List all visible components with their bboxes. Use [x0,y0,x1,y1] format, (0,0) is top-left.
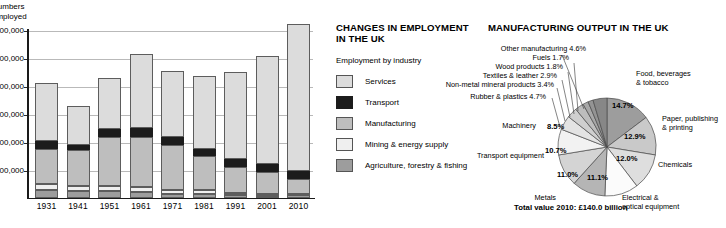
legend-swatch-icon [336,75,353,88]
pie-leader-line [562,80,570,117]
legend-swatch-icon [336,159,353,172]
y-tick-label: 5,000,000 [0,167,24,175]
pie-pct-paper: 12.9% [624,132,646,141]
y-axis-line [27,29,29,198]
legend-swatch-icon [336,117,353,130]
pie-leader-line [557,88,565,121]
x-tick-label: 1981 [188,201,221,211]
legend-swatch-icon [336,96,353,109]
pie-leader-line [562,55,584,109]
bar-segment-mining [161,190,184,193]
bar-1951 [98,78,121,198]
x-tick-label: 2001 [251,201,284,211]
bar-segment-mining [130,187,153,192]
bar-segment-transport [130,128,153,136]
x-tick-label: 2010 [282,201,315,211]
infographic-root: Numbers employed 30,000,000 25,000,000 2… [0,0,726,228]
manufacturing-pie-panel: MANUFACTURING OUTPUT IN THE UK 14.7% 12.… [488,22,726,228]
pie-label-metals: Metals [535,194,557,203]
bar-segment-transport [35,141,58,149]
bar-1931 [35,83,58,197]
bar-segment-manufacturing [193,156,216,191]
x-tick-label: 1951 [93,201,126,211]
pie-label-other: Other manufacturing 4.6% [501,45,586,54]
bar-segment-mining [67,186,90,191]
y-tick-label: 20,000,000 [0,83,24,91]
bar-2001 [256,56,279,198]
pie-label-textiles: Textiles & leather 2.9% [483,72,557,81]
x-tick-label: 1971 [156,201,189,211]
y-tick-label: 10,000,000 [0,139,24,147]
bar-segment-services [224,72,247,159]
bar-segment-services [98,78,121,129]
legend-item-label: Transport [365,98,399,107]
bar-segment-transport [193,149,216,156]
bar-segment-services [35,83,58,140]
bar-segment-agriculture [130,192,153,197]
pie-label-fuels: Fuels 1.7% [532,54,569,63]
bar-segment-mining [35,184,58,191]
pie-pct-transport: 10.7% [545,146,567,155]
employment-panel: CHANGES IN EMPLOYMENT IN THE UK Employme… [336,22,486,176]
x-axis-line [27,198,315,200]
bar-segment-services [193,76,216,148]
pie-label-chemicals: Chemicals [658,161,692,170]
bar-segment-transport [67,145,90,150]
x-tick-label: 1991 [219,201,252,211]
bar-segment-agriculture [224,195,247,198]
legend-item-label: Agriculture, forestry & fishing [365,161,467,170]
pie-leader-line [568,72,574,114]
bar-segment-agriculture [193,194,216,197]
bar-segment-agriculture [35,190,58,197]
y-tick-label: 30,000,000 [0,27,24,35]
bar-segment-services [67,106,90,145]
pie-pct-chemicals: 12.0% [616,154,638,163]
pie-label-paper: Paper, publishing & printing [662,115,718,132]
bar-segment-manufacturing [98,137,121,187]
y-axis-title: Numbers employed [0,2,44,21]
bar-segment-services [130,54,153,128]
bar-segment-manufacturing [35,149,58,184]
employment-panel-title: CHANGES IN EMPLOYMENT IN THE UK [336,22,486,45]
bar-segment-manufacturing [130,137,153,188]
bar-segment-manufacturing [67,150,90,186]
bar-segment-agriculture [287,195,310,197]
legend-item-mining: Mining & energy supply [336,134,486,155]
bar-segment-transport [98,129,121,137]
legend-item-label: Services [365,77,396,86]
legend-swatch-icon [336,138,353,151]
bar-segment-agriculture [256,196,279,198]
pie-label-food: Food, beverages & tobacco [636,70,691,87]
pie-pct-food: 14.7% [612,101,634,110]
pie-pct-metals: 11.0% [557,170,578,179]
bar-segment-services [256,56,279,165]
pie-label-electrical: Electrical & optical equipment [622,194,679,211]
bar-segment-manufacturing [224,167,247,193]
bar-segment-mining [98,186,121,191]
legend-item-manufacturing: Manufacturing [336,113,486,134]
pie-label-wood: Wood products 1.8% [495,63,563,72]
x-tick-label: 1941 [62,201,95,211]
legend-item-agriculture: Agriculture, forestry & fishing [336,155,486,176]
gridline [28,31,313,32]
pie-total-label: Total value 2010: £140.0 billion [514,203,627,212]
legend-item-label: Manufacturing [365,119,416,128]
x-tick-label: 1961 [125,201,158,211]
pie-pct-machinery: 8.5% [547,122,564,131]
pie-label-nonmetal: Non-metal mineral products 3.4% [446,81,554,90]
bar-1991 [224,72,247,197]
bar-segment-transport [224,159,247,167]
employment-bar-chart: Numbers employed 30,000,000 25,000,000 2… [0,0,340,228]
pie-label-machinery: Machinery [502,122,536,131]
legend-item-label: Mining & energy supply [365,140,448,149]
bar-2010 [287,24,310,197]
bar-segment-mining [193,190,216,194]
bar-segment-services [161,71,184,137]
bar-segment-manufacturing [287,179,310,194]
bar-segment-agriculture [67,191,90,197]
bar-segment-agriculture [98,191,121,197]
bar-1971 [161,71,184,198]
y-tick-label: 15,000,000 [0,111,24,119]
bar-segment-mining [224,193,247,195]
bar-segment-services [287,24,310,170]
